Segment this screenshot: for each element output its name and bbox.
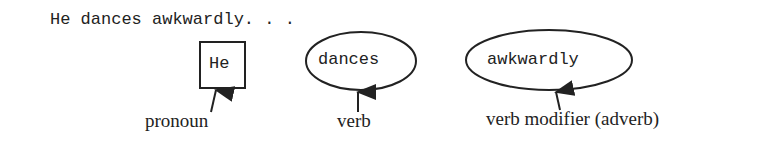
node-word-dances: dances — [318, 50, 379, 69]
pronoun-arrow — [211, 90, 216, 112]
node-word-awkwardly: awkwardly — [487, 50, 579, 69]
label-verb: verb — [337, 110, 371, 132]
node-word-he: He — [209, 54, 229, 73]
label-pronoun: pronoun — [145, 110, 208, 132]
label-adverb: verb modifier (adverb) — [486, 108, 659, 130]
